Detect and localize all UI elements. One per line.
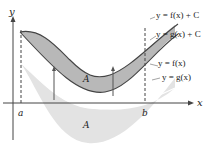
label-g: y = g(x) <box>162 72 191 82</box>
arrow-up-icon <box>111 66 115 71</box>
area-translation-diagram: y x a b A A y = f(x) + C y = g(x) + C y … <box>0 0 211 149</box>
region-upper-label: A <box>82 74 90 84</box>
label-f-plus-c: y = f(x) + C <box>156 10 199 20</box>
label-f: y = f(x) <box>158 58 186 68</box>
leader-f <box>150 64 158 66</box>
bound-b-label: b <box>142 108 148 118</box>
bound-a-label: a <box>18 108 23 118</box>
leader-f-plus-c <box>150 17 155 19</box>
x-axis-label: x <box>197 97 203 108</box>
leader-g <box>152 78 160 80</box>
y-axis-label: y <box>8 6 15 17</box>
x-axis-arrow-icon <box>188 101 194 106</box>
region-lower-label: A <box>82 120 90 130</box>
label-g-plus-c: y = g(x) + C <box>156 29 201 39</box>
